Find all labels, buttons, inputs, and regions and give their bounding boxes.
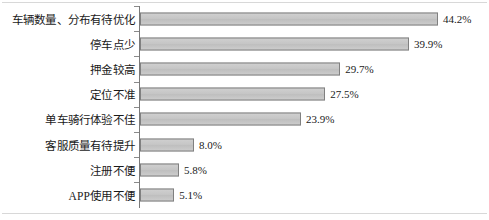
bar [140, 163, 179, 176]
category-label: APP使用不便 [69, 187, 136, 203]
category-label: 停车点少 [90, 36, 135, 52]
category-label: 押金较高 [90, 61, 135, 77]
bar-value-label: 5.1% [179, 189, 202, 201]
bar-row: APP使用不便5.1% [0, 182, 489, 207]
bar-value-label: 23.9% [306, 113, 334, 125]
bar-row: 注册不便5.8% [0, 157, 489, 182]
bar-row: 车辆数量、分布有待优化44.2% [0, 6, 489, 31]
axis-tick [134, 82, 139, 83]
bar-row: 客服质量有待提升8.0% [0, 132, 489, 157]
bar-value-label: 29.7% [345, 63, 373, 75]
bar-row: 定位不准27.5% [0, 82, 489, 107]
category-label: 定位不准 [90, 86, 135, 102]
bar-rows: 车辆数量、分布有待优化44.2%停车点少39.9%押金较高29.7%定位不准27… [0, 6, 489, 208]
bar-row: 押金较高29.7% [0, 56, 489, 81]
axis-tick [134, 182, 139, 183]
bar-value-label: 27.5% [330, 88, 358, 100]
axis-tick [134, 157, 139, 158]
axis-tick [134, 31, 139, 32]
bar [140, 138, 194, 151]
bar-chart-figure: 车辆数量、分布有待优化44.2%停车点少39.9%押金较高29.7%定位不准27… [0, 0, 489, 220]
bar [140, 62, 340, 75]
category-label: 注册不便 [90, 162, 135, 178]
bar-row: 单车骑行体验不佳23.9% [0, 107, 489, 132]
bar-value-label: 5.8% [184, 164, 207, 176]
bar [140, 88, 325, 101]
bar [140, 37, 409, 50]
category-label: 客服质量有待提升 [45, 137, 135, 153]
category-label: 单车骑行体验不佳 [45, 111, 135, 127]
bar [140, 12, 438, 25]
bar-value-label: 44.2% [443, 13, 471, 25]
bar-value-label: 8.0% [199, 139, 222, 151]
bar-row: 停车点少39.9% [0, 31, 489, 56]
category-label: 车辆数量、分布有待优化 [12, 11, 135, 27]
bar [140, 113, 301, 126]
axis-tick [134, 6, 139, 7]
axis-tick [134, 56, 139, 57]
bar [140, 188, 174, 201]
axis-tick [134, 107, 139, 108]
bar-value-label: 39.9% [414, 38, 442, 50]
axis-tick [134, 132, 139, 133]
plot-area: 车辆数量、分布有待优化44.2%停车点少39.9%押金较高29.7%定位不准27… [0, 0, 489, 220]
